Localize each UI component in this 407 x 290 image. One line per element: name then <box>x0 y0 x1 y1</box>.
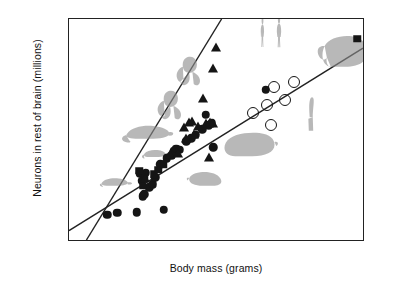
x-minor-tick <box>105 240 106 241</box>
data-point <box>268 81 280 93</box>
human-male-illustration <box>273 18 285 49</box>
x-minor-tick <box>251 240 252 241</box>
trendline <box>69 48 363 230</box>
y-minor-tick <box>68 126 69 127</box>
x-minor-tick <box>209 240 210 241</box>
x-minor-tick <box>268 240 269 241</box>
y-minor-tick <box>68 227 69 228</box>
data-point <box>353 35 361 43</box>
y-minor-tick <box>68 77 69 78</box>
y-minor-tick <box>68 37 69 38</box>
agouti-illustration <box>186 166 226 190</box>
y-minor-tick <box>68 44 69 45</box>
mouse-illustration <box>99 173 133 189</box>
giraffe-illustration <box>300 94 322 134</box>
data-point <box>211 42 221 51</box>
y-minor-tick <box>68 203 69 204</box>
x-tick <box>154 240 155 241</box>
y-minor-tick <box>68 120 69 121</box>
x-minor-tick <box>319 240 320 241</box>
monkey-lower-illustration <box>153 85 187 121</box>
x-minor-tick <box>258 240 259 241</box>
y-minor-tick <box>68 188 69 189</box>
y-tick-40 <box>68 135 69 136</box>
y-minor-tick <box>68 114 69 115</box>
y-tick-1000 <box>68 19 69 20</box>
x-minor-tick <box>274 240 275 241</box>
x-minor-tick <box>107 240 108 241</box>
x-minor-tick <box>316 240 317 241</box>
x-minor-tick <box>186 240 187 241</box>
x-minor-tick <box>192 240 193 241</box>
x-minor-tick <box>264 240 265 241</box>
x-minor-tick <box>179 240 180 241</box>
data-point <box>208 63 218 72</box>
x-tick <box>280 240 281 241</box>
x-minor-tick <box>225 240 226 241</box>
x-minor-tick <box>109 240 110 241</box>
x-minor-tick <box>306 240 307 241</box>
x-minor-tick <box>343 240 344 241</box>
data-point <box>208 118 218 127</box>
data-point <box>288 76 300 88</box>
x-minor-tick <box>147 240 148 241</box>
x-minor-tick <box>144 240 145 241</box>
data-point <box>265 119 277 131</box>
y-minor-tick <box>68 192 69 193</box>
y-minor-tick <box>68 32 69 33</box>
x-minor-tick <box>216 240 217 241</box>
x-minor-tick <box>313 240 314 241</box>
x-minor-tick <box>221 240 222 241</box>
data-point <box>198 94 208 103</box>
x-minor-tick <box>149 240 150 241</box>
x-minor-tick <box>361 240 362 241</box>
y-minor-tick <box>68 105 69 106</box>
x-minor-tick <box>194 240 195 241</box>
x-minor-tick <box>166 240 167 241</box>
x-minor-tick <box>152 240 153 241</box>
x-minor-tick <box>271 240 272 241</box>
x-minor-tick <box>293 240 294 241</box>
x-minor-tick <box>356 240 357 241</box>
x-minor-tick <box>94 240 95 241</box>
x-tick <box>323 240 324 241</box>
x-minor-tick <box>358 240 359 241</box>
x-minor-tick <box>232 240 233 241</box>
capybara-illustration <box>220 127 278 161</box>
data-point <box>132 208 141 217</box>
y-minor-tick <box>68 110 69 111</box>
monkey-upper-illustration <box>172 51 206 87</box>
human-female-illustration <box>257 18 268 49</box>
data-point <box>160 206 169 215</box>
y-axis-title: Neurons in rest of brain (millions) <box>31 23 43 213</box>
x-minor-tick <box>183 240 184 241</box>
data-point <box>113 209 122 218</box>
data-point <box>103 210 112 219</box>
figure-container: Neurons in rest of brain (millions) 2104… <box>0 0 407 290</box>
y-minor-tick <box>68 27 69 28</box>
regression-lines <box>69 19 363 240</box>
x-minor-tick <box>137 240 138 241</box>
data-point <box>189 130 199 139</box>
x-minor-tick <box>174 240 175 241</box>
x-minor-tick <box>141 240 142 241</box>
data-point <box>247 107 259 119</box>
x-minor-tick <box>363 240 364 241</box>
x-minor-tick <box>131 240 132 241</box>
y-tick-100 <box>68 102 69 103</box>
data-point <box>204 153 214 162</box>
x-minor-tick <box>99 240 100 241</box>
y-minor-tick <box>68 159 69 160</box>
y-tick-10 <box>68 184 69 185</box>
x-tick <box>238 240 239 241</box>
data-point <box>173 148 183 157</box>
x-minor-tick <box>189 240 190 241</box>
data-point <box>140 174 150 183</box>
x-axis-title: Body mass (grams) <box>68 262 364 274</box>
x-minor-tick <box>278 240 279 241</box>
data-point <box>261 99 273 111</box>
x-tick <box>196 240 197 241</box>
x-minor-tick <box>310 240 311 241</box>
y-minor-tick <box>68 23 69 24</box>
x-minor-tick <box>276 240 277 241</box>
